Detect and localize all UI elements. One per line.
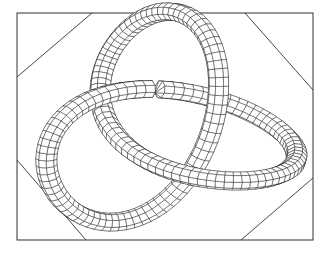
corner-cut-top-left — [17, 13, 92, 77]
knot-diagram — [0, 0, 328, 253]
mesh-cell — [209, 86, 216, 95]
mesh-cell — [233, 172, 242, 176]
mesh-cell — [39, 153, 47, 161]
mesh-cell — [146, 8, 152, 16]
mesh-cell — [215, 68, 224, 77]
mesh-cell — [213, 104, 222, 114]
mesh-cell — [242, 175, 251, 182]
mesh-cell — [249, 175, 258, 182]
mesh-cell — [157, 7, 163, 14]
mesh-cell — [223, 86, 228, 96]
mesh-cell — [224, 175, 233, 182]
mesh-cell — [233, 176, 242, 183]
mesh-cell — [241, 182, 250, 188]
mesh-cell — [112, 220, 119, 227]
mesh-cell — [215, 86, 223, 95]
mesh-cell — [209, 69, 216, 78]
mesh-cell — [106, 214, 113, 220]
mesh-cell — [233, 182, 242, 188]
mesh-cell — [213, 60, 222, 69]
mesh-cell — [46, 154, 54, 161]
figure — [0, 0, 328, 253]
mesh-cell — [215, 181, 224, 188]
mesh-cell — [39, 168, 47, 175]
mesh-cell — [215, 77, 223, 86]
mesh-cell — [223, 68, 229, 77]
mesh-cell — [145, 85, 155, 92]
mesh-cell — [197, 172, 208, 180]
mesh-cell — [208, 94, 215, 104]
mesh-cell — [152, 8, 158, 16]
corner-cut-top-right — [245, 13, 313, 90]
mesh-cell — [223, 77, 228, 86]
mesh-cell — [250, 182, 259, 189]
mesh-cell — [127, 86, 137, 94]
mesh-cell — [174, 87, 185, 95]
mesh-cell — [209, 78, 215, 87]
mesh-cell — [215, 175, 225, 182]
mesh-cell — [183, 88, 194, 96]
mesh-cell — [206, 174, 216, 182]
mesh-cell — [119, 219, 127, 227]
mesh-cell — [164, 86, 174, 94]
mesh-cell — [46, 160, 54, 167]
mesh-cell — [225, 172, 233, 176]
mesh-cell — [214, 95, 223, 105]
mesh-cell — [39, 160, 47, 168]
mesh-cell — [98, 77, 106, 83]
mesh-cell — [212, 52, 222, 61]
mesh-cell — [136, 86, 146, 94]
mesh-cell — [118, 87, 128, 95]
mesh-cell — [224, 182, 233, 188]
